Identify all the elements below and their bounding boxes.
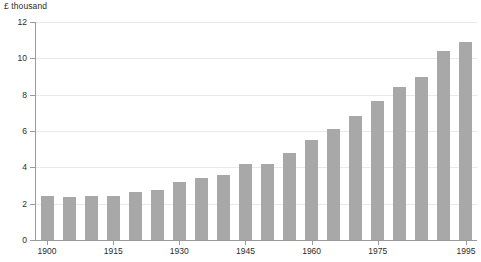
bar	[41, 196, 54, 241]
bar-chart: £ thousand 024681012 1900191519301945196…	[0, 0, 481, 262]
y-tick-mark	[30, 167, 35, 168]
y-tick-label: 10	[7, 53, 27, 63]
x-tick-label: 1995	[457, 246, 476, 256]
y-tick-mark	[30, 240, 35, 241]
gridline-12	[36, 22, 477, 23]
bar	[195, 178, 208, 240]
bar	[261, 164, 274, 240]
x-tick-mark	[47, 241, 48, 245]
bar	[151, 190, 164, 240]
y-tick-label: 0	[7, 235, 27, 245]
gridline-0	[36, 240, 477, 241]
bar	[415, 77, 428, 241]
bar	[173, 182, 186, 240]
x-tick-label: 1930	[170, 246, 189, 256]
y-tick-mark	[30, 204, 35, 205]
y-axis-labels: 024681012	[0, 0, 27, 262]
y-tick-label: 12	[7, 17, 27, 27]
bar	[63, 197, 76, 240]
bar	[239, 164, 252, 240]
x-tick-mark	[179, 241, 180, 245]
y-tick-label: 2	[7, 199, 27, 209]
x-tick-label: 1945	[236, 246, 255, 256]
x-tick-mark	[466, 241, 467, 245]
bar	[85, 196, 98, 240]
bar	[283, 153, 296, 240]
x-tick-label: 1900	[38, 246, 57, 256]
bar	[129, 192, 142, 240]
y-tick-mark	[30, 58, 35, 59]
y-tick-mark	[30, 22, 35, 23]
bar	[349, 116, 362, 240]
x-tick-mark	[378, 241, 379, 245]
gridline-4	[36, 167, 477, 168]
x-tick-mark	[113, 241, 114, 245]
gridline-8	[36, 95, 477, 96]
y-tick-mark	[30, 95, 35, 96]
bar	[437, 51, 450, 240]
y-tick-label: 8	[7, 90, 27, 100]
x-tick-label: 1975	[368, 246, 387, 256]
y-tick-mark	[30, 131, 35, 132]
x-tick-mark	[312, 241, 313, 245]
bar	[107, 196, 120, 240]
gridline-10	[36, 58, 477, 59]
bar	[217, 175, 230, 240]
plot-area	[36, 22, 477, 240]
bar	[305, 140, 318, 240]
bar	[371, 101, 384, 240]
x-tick-mark	[245, 241, 246, 245]
y-tick-label: 6	[7, 126, 27, 136]
x-tick-label: 1915	[104, 246, 123, 256]
y-tick-label: 4	[7, 162, 27, 172]
x-tick-label: 1960	[302, 246, 321, 256]
bar	[327, 129, 340, 240]
bar	[393, 87, 406, 240]
gridline-2	[36, 204, 477, 205]
gridline-6	[36, 131, 477, 132]
bar	[459, 42, 472, 240]
